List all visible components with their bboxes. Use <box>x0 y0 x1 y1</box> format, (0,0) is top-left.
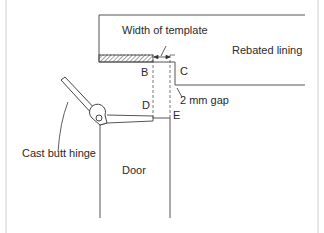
cast-butt-hinge <box>61 77 107 125</box>
point-c-label: C <box>180 66 188 77</box>
point-b-label: B <box>141 67 148 78</box>
point-d-label: D <box>142 100 150 111</box>
hinge-diagram: Width of template Rebated lining B C 2 m… <box>0 0 324 233</box>
gap-label: 2 mm gap <box>180 95 229 106</box>
hinge-leader-line <box>58 102 68 152</box>
width-of-template-label: Width of template <box>122 25 208 36</box>
rebated-lining-label: Rebated lining <box>232 45 302 56</box>
template-strip <box>99 55 153 62</box>
point-e-label: E <box>173 110 180 121</box>
width-dimension-arrow <box>154 46 170 59</box>
door-label: Door <box>122 165 146 176</box>
cast-butt-hinge-label: Cast butt hinge <box>22 148 96 159</box>
